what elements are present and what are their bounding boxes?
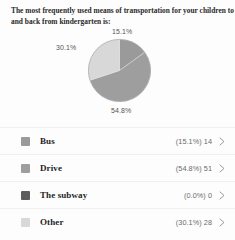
chevron-right-icon[interactable] bbox=[219, 218, 225, 227]
pie-chart: 15.1% 30.1% 54.8% 0.0% bbox=[0, 27, 235, 123]
legend-label-bus: Bus bbox=[40, 136, 55, 146]
question-line-2: and back from kindergarten is: bbox=[11, 16, 226, 27]
pie-label-bus: 15.1% bbox=[112, 28, 132, 35]
legend-swatch-other bbox=[21, 218, 30, 227]
survey-result-card: The most frequently used means of transp… bbox=[0, 0, 235, 240]
pie-slices bbox=[88, 39, 150, 101]
legend-label-drive: Drive bbox=[40, 163, 62, 173]
legend-label-the-subway: The subway bbox=[40, 190, 87, 200]
pie-label-other: 30.1% bbox=[56, 44, 76, 51]
legend: Bus (15.1%) 14 Drive (54.8%) 51 The subw… bbox=[0, 127, 235, 235]
chevron-right-icon[interactable] bbox=[219, 191, 225, 200]
legend-value-drive: (54.8%) 51 bbox=[176, 164, 212, 173]
pie-svg bbox=[88, 39, 151, 102]
legend-swatch-bus bbox=[21, 137, 30, 146]
page-title: The most frequently used means of transp… bbox=[0, 0, 235, 27]
pie-label-drive: 54.8% bbox=[111, 107, 131, 114]
chevron-right-icon[interactable] bbox=[219, 164, 225, 173]
legend-row-other[interactable]: Other (30.1%) 28 bbox=[0, 208, 235, 235]
legend-row-drive[interactable]: Drive (54.8%) 51 bbox=[0, 154, 235, 181]
pie-graphic bbox=[88, 39, 151, 102]
legend-value-bus: (15.1%) 14 bbox=[176, 137, 212, 146]
legend-row-bus[interactable]: Bus (15.1%) 14 bbox=[0, 127, 235, 154]
legend-swatch-drive bbox=[21, 164, 30, 173]
legend-row-the-subway[interactable]: The subway (0.0%) 0 bbox=[0, 181, 235, 208]
question-line-1: The most frequently used means of transp… bbox=[11, 5, 226, 16]
legend-value-the-subway: (0.0%) 0 bbox=[184, 191, 212, 200]
chevron-right-icon[interactable] bbox=[219, 137, 225, 146]
legend-label-other: Other bbox=[40, 217, 64, 227]
legend-value-other: (30.1%) 28 bbox=[176, 218, 212, 227]
legend-swatch-the-subway bbox=[21, 191, 30, 200]
